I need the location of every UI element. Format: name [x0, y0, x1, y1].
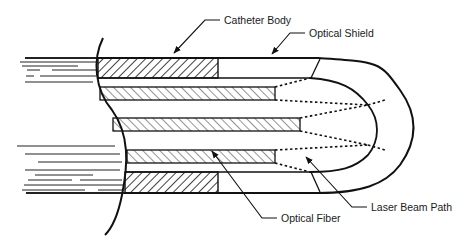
label-catheter-body: Catheter Body	[224, 14, 292, 26]
break-lines-top	[20, 58, 98, 82]
laser-catheter-diagram: Catheter Body Optical Shield Optical Fib…	[0, 0, 464, 245]
catheter-body-leader	[174, 20, 220, 53]
optical-shield-outer	[318, 58, 414, 193]
catheter-body-top	[98, 58, 218, 78]
optical-shield-inner	[310, 78, 377, 172]
label-laser-beam-path: Laser Beam Path	[371, 201, 452, 213]
optical-fiber-1	[100, 87, 275, 100]
catheter-body-bottom	[125, 172, 218, 193]
shield-junction-bottom	[311, 172, 320, 192]
shield-junction-top	[311, 59, 320, 78]
optical-shield-leader	[272, 33, 305, 54]
label-optical-shield: Optical Shield	[309, 27, 374, 39]
optical-fiber-2	[113, 118, 300, 131]
break-lines-bottom	[17, 146, 126, 193]
label-optical-fiber: Optical Fiber	[281, 212, 341, 224]
optical-fiber-3	[127, 150, 275, 163]
